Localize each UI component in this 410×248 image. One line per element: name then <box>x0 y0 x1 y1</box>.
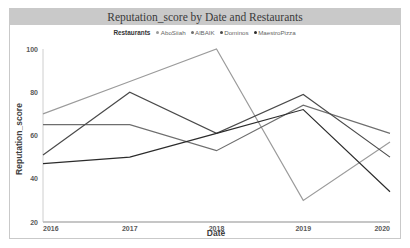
legend-title: Restaurants <box>113 29 150 36</box>
chart-card: Reputation_score by Date and Restaurants… <box>9 8 401 239</box>
y-tick-100: 100 <box>26 46 38 53</box>
legend-item-dominos[interactable]: Dominos <box>220 29 249 36</box>
legend-item-abosiiah[interactable]: AboSiiah <box>156 29 185 36</box>
y-tick-40: 40 <box>30 175 38 182</box>
x-tick-2016: 2016 <box>43 225 59 232</box>
y-tick-60: 60 <box>30 132 38 139</box>
y-tick-20: 20 <box>30 219 38 226</box>
series-lines <box>43 49 390 200</box>
x-tick-2017: 2017 <box>122 225 138 232</box>
legend-item-maestropizza[interactable]: MaestroPizza <box>254 29 296 36</box>
chart-title-bar: Reputation_score by Date and Restaurants <box>10 9 400 25</box>
legend-item-albaik[interactable]: AlBAIK <box>191 29 215 36</box>
legend-swatch-abosiiah <box>156 31 159 34</box>
legend-swatch-dominos <box>220 31 223 34</box>
y-tick-80: 80 <box>30 89 38 96</box>
legend-label-dominos: Dominos <box>224 29 248 36</box>
page-title: Reputation_score by Date and Restaurants <box>10 9 400 25</box>
x-axis-title: Date <box>207 228 226 238</box>
y-axis-title: Reputation_score <box>14 103 24 175</box>
x-tick-2020: 2020 <box>374 225 390 232</box>
legend-swatch-maestropizza <box>254 31 257 34</box>
chart-legend: Restaurants AboSiiah AlBAIK Dominos Maes… <box>10 26 400 39</box>
x-tick-2019: 2019 <box>295 225 311 232</box>
legend-label-abosiiah: AboSiiah <box>161 29 186 36</box>
legend-label-maestropizza: MaestroPizza <box>258 29 295 36</box>
legend-swatch-albaik <box>191 31 194 34</box>
plot-area: 20406080100 20162017201820192020 Reputat… <box>10 39 402 238</box>
line-chart-svg: 20406080100 20162017201820192020 Reputat… <box>10 39 402 238</box>
legend-label-albaik: AlBAIK <box>195 29 215 36</box>
y-axis-tick-labels: 20406080100 <box>26 46 38 226</box>
series-line-albaik[interactable] <box>43 105 390 150</box>
